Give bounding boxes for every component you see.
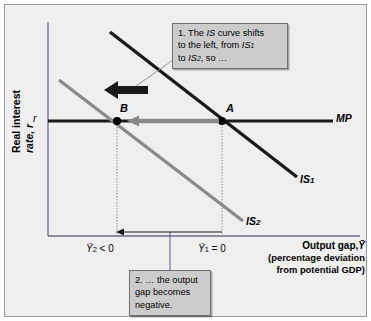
callout-is-shift: 1. The IS curve shifts to the left, from… — [172, 23, 288, 69]
callout-1-line2-pre: to the left, from — [178, 40, 242, 50]
callout-1-line1-pre: The — [188, 28, 206, 38]
point-b-marker — [113, 117, 121, 125]
callout-1-line3-to: to — [178, 53, 188, 63]
point-a-label: A — [226, 102, 234, 114]
equilibrium-shift-arrow — [127, 116, 219, 127]
callout-1-is1-sub: 1 — [251, 42, 255, 49]
x-tick-label-y1: Ȳ1 = 0 — [198, 243, 226, 254]
x-tick-y1-rest: = 0 — [209, 243, 226, 254]
x-axis-title-sub2: from potential GDP) — [247, 264, 365, 275]
callout-2-line1: … the output — [145, 275, 198, 285]
is2-curve-label: IS2 — [246, 216, 260, 228]
callout-1-line3-post: , so … — [201, 53, 228, 63]
x-axis-title: Output gap,Ȳ (percentage deviation from … — [247, 240, 365, 275]
callout-2-line2: gap becomes — [135, 287, 190, 297]
is2-curve — [59, 80, 243, 221]
output-gap-arrow — [116, 229, 222, 236]
is2-label-sub: 2 — [256, 218, 260, 227]
point-b-label: B — [120, 102, 128, 114]
y-axis-title-line2: rate, r — [23, 124, 35, 153]
x-axis-title-sub1: (percentage deviation — [247, 252, 365, 263]
is1-label-base: IS — [300, 173, 310, 185]
callout-1-is-term: IS — [206, 28, 215, 38]
x-axis-title-main: Output gap,Ȳ — [247, 240, 365, 252]
x-tick-y2-rest: < 0 — [97, 243, 114, 254]
callout-2-number: 2. — [135, 275, 143, 285]
figure-screenshot: Real interest rate, r r Ȳ2 < 0 Ȳ1 = 0 Ou… — [0, 0, 371, 321]
callout-1-is1-term: IS — [242, 40, 251, 50]
y-tick-label-r: r — [33, 113, 37, 125]
callout-1-line1-post: curve shifts — [215, 28, 264, 38]
is1-curve-label: IS1 — [300, 174, 314, 186]
callout-output-gap: 2. … the output gap becomes negative. — [129, 270, 211, 316]
is2-label-base: IS — [246, 215, 256, 227]
is1-label-sub: 1 — [310, 176, 314, 185]
y-axis-title-line1: Real interest — [10, 90, 22, 153]
is-shift-arrow — [104, 81, 148, 99]
callout-2-line3: negative. — [135, 300, 172, 310]
callout-1-is2-term: IS — [188, 53, 197, 63]
mp-curve-label: MP — [336, 113, 352, 125]
callout-1-leader — [136, 58, 176, 86]
callout-1-number: 1. — [178, 28, 186, 38]
x-tick-label-y2: Ȳ2 < 0 — [86, 243, 114, 254]
point-a-marker — [218, 117, 226, 125]
y-axis-title: Real interest rate, r — [10, 18, 50, 153]
